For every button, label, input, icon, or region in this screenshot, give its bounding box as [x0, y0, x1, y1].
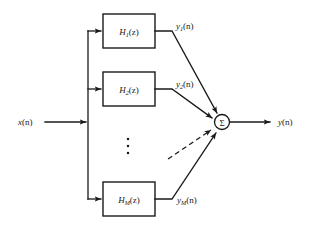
input-signal-label-arg: (n)	[22, 117, 33, 127]
vertical-ellipsis-icon	[127, 138, 130, 155]
filter-block-2-label: H2(z)	[118, 85, 139, 96]
branch-2-output-wire	[155, 89, 212, 118]
filter-block-m-label-arg: (z)	[130, 195, 140, 205]
branch-1-signal-label-arg: (n)	[183, 21, 194, 31]
omitted-branches-dashed-wire	[168, 130, 211, 159]
branch-m-signal-label: yM(n)	[176, 195, 197, 206]
sigma-icon: Σ	[219, 118, 224, 128]
output-signal-label-arg: (n)	[282, 117, 293, 127]
filter-block-2-label-arg: (z)	[129, 85, 139, 95]
branch-1-signal-label: y1(n)	[175, 21, 194, 32]
branch-1-output-wire	[155, 31, 217, 113]
branch-2-signal-label-arg: (n)	[183, 79, 194, 89]
block-diagram-svg: x(n) H1(z) y1(n) H2(z) y2(n)	[0, 0, 318, 228]
filter-block-1-label: H1(z)	[118, 27, 139, 38]
branch-m-signal-label-arg: (n)	[186, 195, 197, 205]
filter-block-1-label-arg: (z)	[129, 27, 139, 37]
branch-m-output-wire	[155, 133, 216, 199]
input-signal-label: x(n)	[17, 117, 33, 127]
branch-2-signal-label: y2(n)	[175, 79, 194, 90]
output-signal-label: y(n)	[277, 117, 293, 127]
block-diagram-canvas: x(n) H1(z) y1(n) H2(z) y2(n)	[0, 0, 318, 228]
